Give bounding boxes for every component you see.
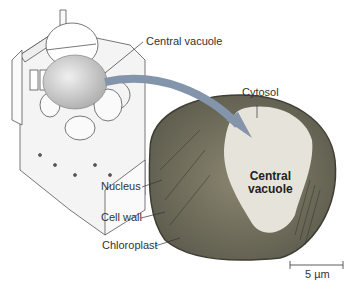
label-line-2: vacuole [248,183,293,196]
label-scale-bar: 5 µm [305,268,330,280]
label-chloroplast: Chloroplast [102,239,158,251]
vacuole-sphere [43,55,107,109]
label-nucleus: Nucleus [101,180,141,192]
label-cytosol: Cytosol [242,86,279,98]
label-cell-wall: Cell wall [101,211,142,223]
label-central-vacuole-drawing: Central vacuole [146,35,222,47]
label-central-vacuole-micrograph: Central vacuole [248,170,293,196]
plant-cell-drawing [12,10,145,235]
